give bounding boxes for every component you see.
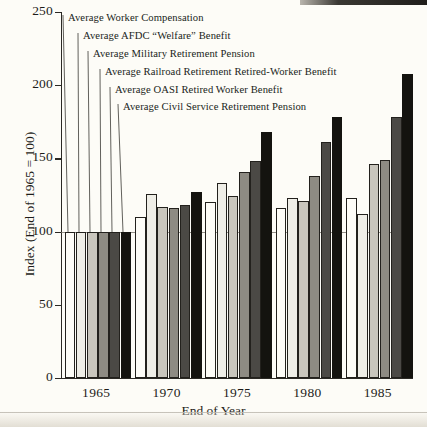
leader-line-5 — [118, 104, 123, 232]
legend-item-5: Average Civil Service Retirement Pension — [123, 101, 306, 112]
x-axis-line — [61, 378, 413, 379]
bar-1965-series-3 — [98, 232, 109, 378]
legend-item-1: Average AFDC “Welfare” Benefit — [83, 30, 231, 41]
scan-artifact-bottom — [0, 411, 427, 427]
bar-1965-series-0 — [65, 232, 76, 378]
bar-1965-series-2 — [87, 232, 98, 378]
legend-item-2: Average Military Retirement Pension — [93, 48, 255, 59]
x-tick-label-1965: 1965 — [61, 385, 131, 401]
legend: Average Worker CompensationAverage AFDC … — [0, 0, 427, 120]
bar-1970-series-0 — [135, 217, 146, 378]
y-tick-label-50: 50 — [39, 296, 53, 312]
legend-item-3: Average Railroad Retirement Retired-Work… — [105, 66, 337, 77]
y-tick-label-0: 0 — [46, 369, 53, 385]
x-tick-label-1975: 1975 — [202, 385, 272, 401]
x-tick-label-1980: 1980 — [272, 385, 342, 401]
bar-1965-series-5 — [121, 232, 132, 378]
bar-1965-series-4 — [109, 232, 120, 378]
bar-chart: 050100150200250 Index (End of 1965 = 100… — [0, 0, 427, 427]
legend-item-4: Average OASI Retired Worker Benefit — [115, 84, 283, 95]
legend-item-0: Average Worker Compensation — [68, 12, 204, 23]
x-tick-label-1985: 1985 — [343, 385, 413, 401]
bar-1965-series-1 — [76, 232, 87, 378]
x-tick-label-1970: 1970 — [132, 385, 202, 401]
y-tick-0 — [55, 378, 61, 379]
